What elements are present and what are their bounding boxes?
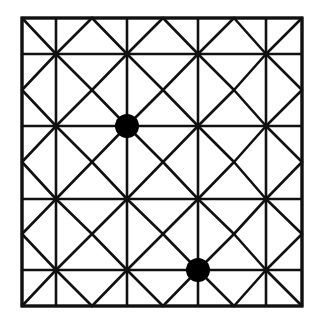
diagonal-line [22,90,56,126]
diagonal-line [234,126,266,162]
diagonal-line [266,90,302,126]
diagonal-line [56,199,92,234]
diagonal-line [234,162,266,199]
diagram-canvas [0,0,320,322]
diagonal-line [56,126,92,162]
diagonal-line [92,199,127,234]
diagonal-line [198,54,234,90]
diagonal-line [22,234,56,270]
diagonal-line [127,234,163,270]
diagonal-line [56,90,92,126]
diagonal-line [198,90,234,126]
diagonal-line [56,54,92,90]
diagonal-line [163,54,198,90]
black-dot [115,114,139,138]
diagonal-line [163,18,198,54]
diagonal-line [234,270,266,306]
diagonal-line [163,90,198,126]
diagonal-line [92,234,127,270]
diagonal-line [266,54,302,90]
diagonal-line [266,126,302,162]
diagonal-line [127,162,163,199]
diagonal-line [127,270,163,306]
diagonal-line [234,199,266,234]
diagonal-line [163,162,198,199]
diagonal-line [266,199,302,234]
diagonal-line [22,54,56,90]
diagonal-lines [22,18,302,306]
diagonal-line [266,270,302,306]
diagonal-line [266,162,302,199]
diagonal-line [22,18,56,54]
diagonal-line [266,234,302,270]
diagonal-line [198,126,234,162]
diagonal-line [234,18,266,54]
diagonal-line [92,162,127,199]
diagonal-line [234,90,266,126]
grid-board [0,0,320,322]
diagonal-line [127,199,163,234]
diagonal-line [163,126,198,162]
diagonal-line [198,199,234,234]
diagonal-line [234,234,266,270]
diagonal-line [56,18,92,54]
diagonal-line [198,162,234,199]
diagonal-line [92,54,127,90]
diagonal-line [22,199,56,234]
diagonal-line [22,162,56,199]
diagonal-line [92,18,127,54]
diagonal-line [127,54,163,90]
diagonal-line [266,18,302,54]
diagonal-line [163,199,198,234]
diagonal-line [234,54,266,90]
diagonal-line [198,18,234,54]
diagonal-line [56,234,92,270]
diagonal-line [127,18,163,54]
diagonal-line [92,270,127,306]
diagonal-line [56,270,92,306]
black-dot [186,258,210,282]
diagonal-line [56,162,92,199]
diagonal-line [22,126,56,162]
diagonal-line [22,270,56,306]
